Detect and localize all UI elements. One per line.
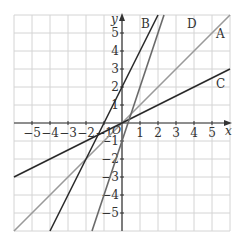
line-chart: −5−4−3−2−112345−5−4−3−2−112345 x y O B D… xyxy=(0,0,243,243)
origin-label: O xyxy=(112,124,121,137)
y-tick-label: 5 xyxy=(111,26,119,40)
y-axis-label: y xyxy=(110,12,118,26)
y-tick-label: 3 xyxy=(111,62,119,76)
y-tick-label: 2 xyxy=(111,80,119,94)
x-tick-label: −4 xyxy=(41,126,59,140)
y-tick-label: 4 xyxy=(111,44,119,58)
x-tick-label: 2 xyxy=(154,126,162,140)
x-tick-label: 3 xyxy=(172,126,180,140)
line-label-d: D xyxy=(187,17,197,31)
x-tick-label: 4 xyxy=(190,126,198,140)
x-tick-label: −3 xyxy=(59,126,77,140)
x-tick-label: 5 xyxy=(208,126,216,140)
y-tick-label: −5 xyxy=(101,206,119,220)
x-axis-label: x xyxy=(225,124,232,138)
line-label-a: A xyxy=(215,27,225,41)
x-tick-label: −5 xyxy=(23,126,41,140)
line-label-c: C xyxy=(216,77,225,91)
x-tick-label: 1 xyxy=(136,126,144,140)
y-axis-arrow-icon xyxy=(119,13,125,21)
line-label-b: B xyxy=(141,17,150,31)
